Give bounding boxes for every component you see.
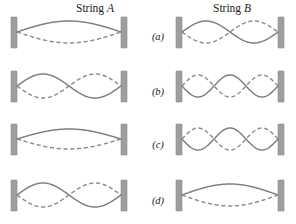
string-a-heading: String A xyxy=(76,2,115,15)
standing-wave-string-a-row-d xyxy=(17,183,121,207)
wave-dashed-curve xyxy=(17,74,121,98)
row-label-b: (b) xyxy=(152,86,165,98)
wall-right-string-b-row-a xyxy=(278,17,284,48)
waves-layer xyxy=(17,21,278,207)
wall-left-string-a-row-a xyxy=(11,17,17,48)
wave-solid-curve xyxy=(182,184,278,195)
heading-variable: A xyxy=(106,2,115,14)
row-label-a: (a) xyxy=(152,31,165,43)
wave-dashed-curve xyxy=(17,183,121,207)
wall-left-string-a-row-b xyxy=(11,71,17,102)
wall-right-string-a-row-d xyxy=(121,180,127,211)
standing-wave-string-b-row-d xyxy=(182,184,278,206)
standing-wave-string-b-row-a xyxy=(182,21,278,43)
wall-right-string-b-row-b xyxy=(278,71,284,102)
wave-dashed-curve xyxy=(182,75,278,97)
string-b-heading: String B xyxy=(213,2,251,15)
walls-layer xyxy=(11,17,284,211)
wall-left-string-b-row-b xyxy=(176,71,182,102)
standing-wave-string-a-row-b xyxy=(17,74,121,98)
figure-canvas: String AString B (a)(b)(c)(d) xyxy=(0,0,296,224)
wall-right-string-b-row-c xyxy=(278,124,284,155)
row-labels-layer: (a)(b)(c)(d) xyxy=(152,31,165,207)
standing-wave-string-a-row-a xyxy=(17,21,121,43)
standing-wave-string-a-row-c xyxy=(17,129,121,149)
standing-wave-figure: String AString B (a)(b)(c)(d) xyxy=(0,0,296,224)
wave-solid-curve xyxy=(182,75,278,97)
standing-wave-string-b-row-b xyxy=(182,75,278,97)
row-label-d: (d) xyxy=(152,195,165,207)
heading-prefix: String xyxy=(213,2,244,15)
wall-right-string-a-row-b xyxy=(121,71,127,102)
wave-dashed-curve xyxy=(182,128,278,150)
headings-layer: String AString B xyxy=(76,2,251,15)
wall-left-string-b-row-a xyxy=(176,17,182,48)
wave-solid-curve xyxy=(17,21,121,32)
row-label-c: (c) xyxy=(152,139,164,151)
standing-wave-string-b-row-c xyxy=(182,128,278,150)
wall-left-string-a-row-c xyxy=(11,124,17,155)
wall-left-string-b-row-c xyxy=(176,124,182,155)
heading-variable: B xyxy=(244,2,251,14)
heading-prefix: String xyxy=(76,2,107,15)
wall-left-string-b-row-d xyxy=(176,180,182,211)
wall-right-string-b-row-d xyxy=(278,180,284,211)
wave-dashed-curve xyxy=(17,139,121,149)
wall-left-string-a-row-d xyxy=(11,180,17,211)
wave-solid-curve xyxy=(182,128,278,150)
wave-dashed-curve xyxy=(182,195,278,206)
wave-dashed-curve xyxy=(17,32,121,43)
wall-right-string-a-row-c xyxy=(121,124,127,155)
wall-right-string-a-row-a xyxy=(121,17,127,48)
wave-solid-curve xyxy=(17,129,121,139)
wave-solid-curve xyxy=(182,21,278,43)
